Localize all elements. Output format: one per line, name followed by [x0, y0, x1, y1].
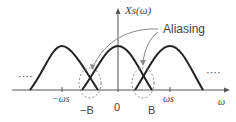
x-axis-label: ω	[218, 96, 225, 107]
tick-label-b: B	[148, 104, 155, 116]
aliasing-label: Aliasing	[163, 22, 205, 36]
ellipsis-left: ····	[18, 70, 33, 82]
tick-label-neg-b: −B	[80, 104, 94, 116]
arrow-head-right-icon	[140, 60, 146, 66]
tick-label-ws: ωs	[163, 93, 174, 104]
ellipsis-right: ····	[206, 66, 221, 78]
y-axis-arrow-icon	[116, 8, 121, 14]
x-axis-arrow-icon	[224, 88, 230, 93]
tick-label-zero: 0	[114, 101, 120, 113]
aliasing-region-left	[79, 68, 101, 98]
aliasing-region-right	[132, 68, 154, 98]
y-axis-label: Xs(ω)	[125, 4, 151, 16]
tick-label-neg-ws: −ωs	[52, 93, 70, 104]
